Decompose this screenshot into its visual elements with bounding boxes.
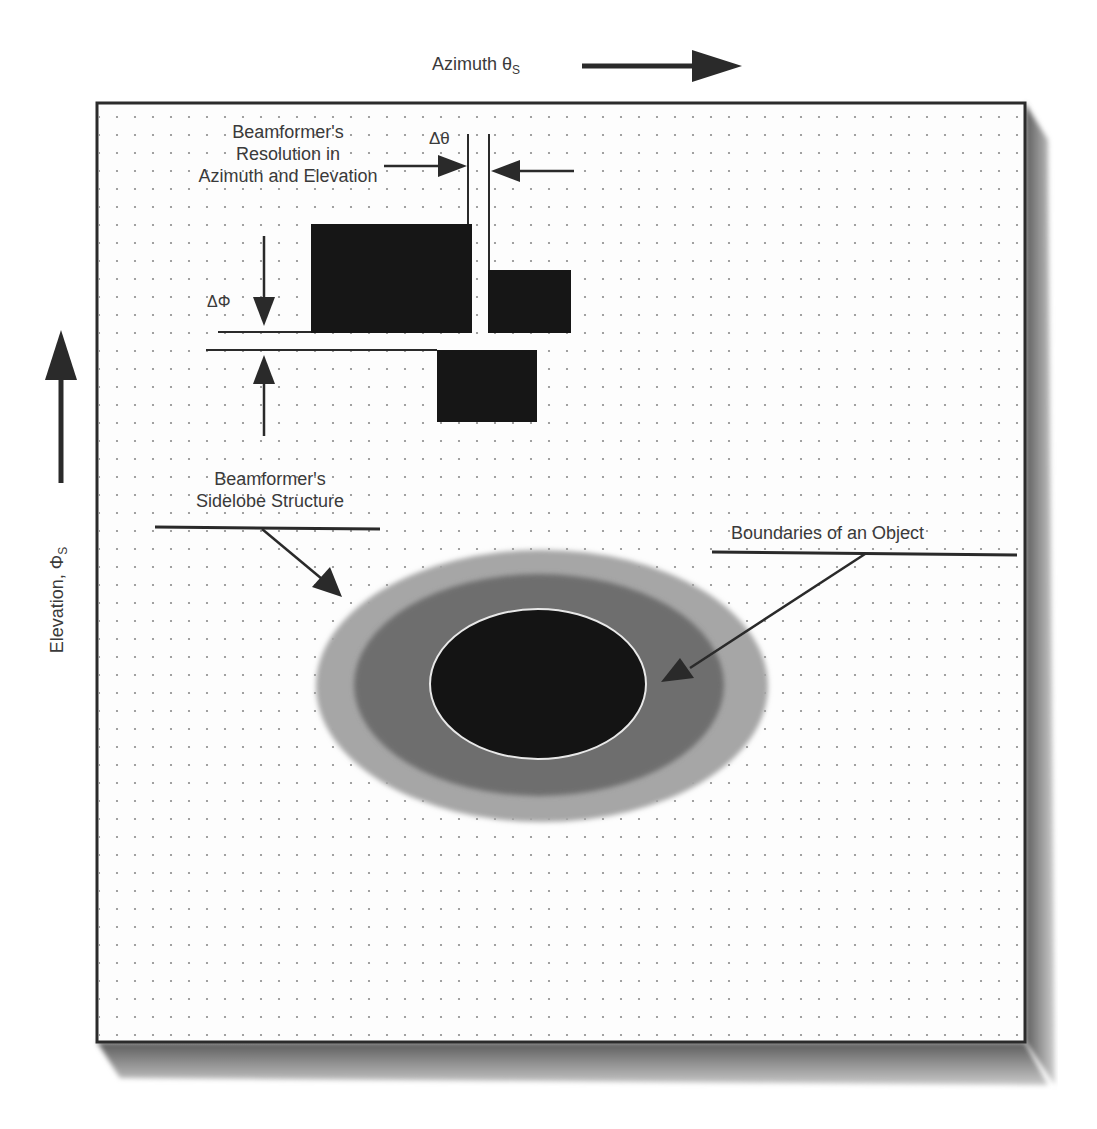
object-boundary-annotation: Boundaries of an Object <box>731 522 924 544</box>
elevation-label-text: Elevation, Φ <box>47 555 67 653</box>
resolution-line-1: Beamformer's <box>168 121 408 143</box>
delta-theta-label: Δθ <box>429 128 450 150</box>
azimuth-axis-label: Azimuth θS <box>432 53 520 81</box>
beamformer-diagram: Azimuth θS Elevation, ΦS Beamformer's Re… <box>0 0 1097 1129</box>
resolution-cell-lower <box>437 350 537 422</box>
delta-phi-label: ΔΦ <box>207 291 230 313</box>
resolution-line-3: Azimuth and Elevation <box>168 165 408 187</box>
azimuth-subscript: S <box>512 63 520 77</box>
elevation-axis-label: Elevation, ΦS <box>46 547 74 653</box>
resolution-cell-right <box>488 270 571 333</box>
resolution-line-2: Resolution in <box>168 143 408 165</box>
sidelobe-annotation: Beamformer's Sidelobe Structure <box>160 468 380 512</box>
resolution-cell-large <box>311 224 472 333</box>
azimuth-arrow-icon <box>582 50 742 82</box>
azimuth-label-text: Azimuth θ <box>432 54 512 74</box>
sidelobe-line-1: Beamformer's <box>160 468 380 490</box>
sidelobe-line-2: Sidelobe Structure <box>160 490 380 512</box>
elevation-arrow-icon <box>45 330 77 483</box>
object <box>430 609 646 759</box>
resolution-annotation: Beamformer's Resolution in Azimuth and E… <box>168 121 408 187</box>
elevation-subscript: S <box>56 547 70 555</box>
